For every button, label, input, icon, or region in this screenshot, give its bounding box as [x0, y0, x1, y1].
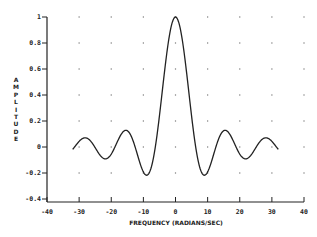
grid-dot [143, 68, 144, 69]
y-axis-title-letter: E [14, 135, 18, 142]
y-axis-title-letter: T [14, 113, 19, 120]
y-ticks: -0.4-0.200.20.40.60.81 [25, 13, 47, 203]
grid-dot [239, 120, 240, 121]
y-axis-title-letter: L [14, 98, 18, 105]
y-axis-title: AMPLITUDE [13, 76, 19, 142]
grid-dot [303, 16, 304, 17]
x-axis-title: FREQUENCY (RADIANS/SEC) [129, 219, 223, 226]
grid-dot [239, 146, 240, 147]
grid-dot [79, 94, 80, 95]
grid-dot [207, 120, 208, 121]
grid-dot [79, 42, 80, 43]
grid-dot [175, 94, 176, 95]
grid-dot [239, 172, 240, 173]
grid-dot [175, 42, 176, 43]
grid-dot [303, 120, 304, 121]
grid-dot [271, 94, 272, 95]
grid-dot [207, 94, 208, 95]
x-tick-label: 20 [236, 208, 244, 216]
grid-dot [239, 94, 240, 95]
y-tick-label: 0.6 [29, 65, 41, 73]
grid-dot [143, 94, 144, 95]
grid-dot [175, 146, 176, 147]
sinc-chart: -40-30-20-10010203040 -0.4-0.200.20.40.6… [0, 0, 317, 237]
grid-dot [271, 120, 272, 121]
grid-dot [207, 16, 208, 17]
grid-dot [79, 172, 80, 173]
grid-dot [303, 68, 304, 69]
x-tick-label: 10 [204, 208, 212, 216]
grid-dot [111, 68, 112, 69]
grid-dot [79, 68, 80, 69]
x-tick-label: -20 [105, 208, 117, 216]
x-tick-label: 40 [300, 208, 308, 216]
grid-dot [271, 172, 272, 173]
x-tick-label: 0 [174, 208, 178, 216]
grid-dot [271, 42, 272, 43]
grid-dot [111, 42, 112, 43]
grid-dot [175, 120, 176, 121]
grid-dot [239, 42, 240, 43]
grid-dot [143, 16, 144, 17]
y-tick-label: 0.2 [29, 117, 41, 125]
grid-dot [207, 68, 208, 69]
y-tick-label: 0.4 [29, 91, 41, 99]
grid-dot [303, 146, 304, 147]
grid-dot [239, 16, 240, 17]
x-ticks: -40-30-20-10010203040 [41, 197, 308, 216]
grid-dot [175, 172, 176, 173]
y-tick-label: -0.2 [25, 169, 41, 177]
y-axis-title-letter: I [15, 106, 17, 113]
grid-dot [207, 146, 208, 147]
grid-dot [79, 16, 80, 17]
x-tick-label: -40 [41, 208, 53, 216]
grid-dots [79, 16, 305, 173]
grid-dot [271, 146, 272, 147]
grid-dot [79, 146, 80, 147]
grid-dot [143, 146, 144, 147]
grid-dot [79, 120, 80, 121]
y-tick-label: 0 [37, 143, 41, 151]
grid-dot [143, 42, 144, 43]
grid-dot [111, 172, 112, 173]
grid-dot [111, 16, 112, 17]
grid-dot [175, 68, 176, 69]
amplitude-curve [73, 17, 279, 175]
y-tick-label: 1 [37, 13, 41, 21]
y-tick-label: -0.4 [25, 195, 41, 203]
grid-dot [271, 16, 272, 17]
y-axis-title-letter: P [14, 91, 19, 98]
x-tick-label: 30 [268, 208, 276, 216]
y-axis-title-letter: D [14, 128, 19, 135]
axes [47, 17, 304, 202]
grid-dot [271, 68, 272, 69]
y-axis-title-letter: M [13, 83, 19, 90]
grid-dot [303, 94, 304, 95]
grid-dot [143, 120, 144, 121]
y-axis-title-letter: U [14, 120, 19, 127]
grid-dot [239, 68, 240, 69]
y-tick-label: 0.8 [29, 39, 41, 47]
grid-dot [207, 42, 208, 43]
grid-dot [111, 146, 112, 147]
grid-dot [111, 120, 112, 121]
grid-dot [303, 42, 304, 43]
x-tick-label: -30 [73, 208, 85, 216]
y-axis-title-letter: A [14, 76, 19, 83]
grid-dot [303, 172, 304, 173]
grid-dot [111, 94, 112, 95]
x-tick-label: -10 [138, 208, 150, 216]
